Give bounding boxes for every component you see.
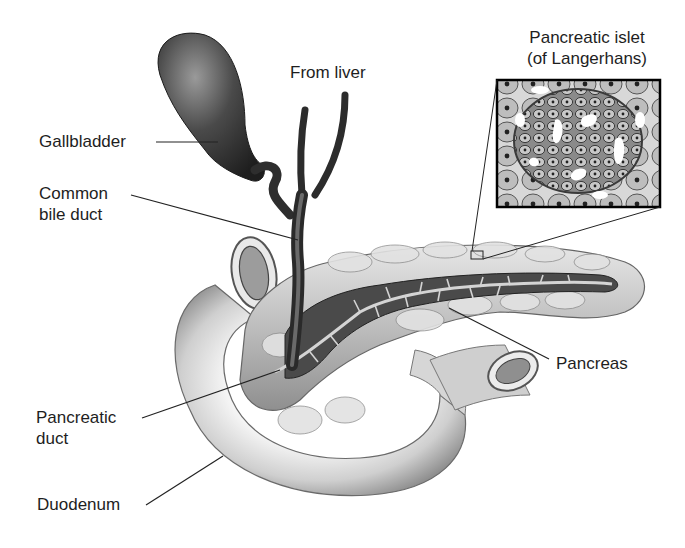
label-pancreatic-islet: Pancreatic islet (of Langerhans) bbox=[507, 27, 667, 69]
label-pancreas: Pancreas bbox=[556, 353, 628, 374]
islet-inset bbox=[471, 80, 660, 259]
label-common-bile-duct: Common bile duct bbox=[39, 183, 108, 225]
pancreas-anatomy-diagram: From liver Gallbladder Common bile duct … bbox=[0, 0, 685, 548]
label-from-liver: From liver bbox=[290, 62, 366, 83]
label-duodenum: Duodenum bbox=[37, 494, 120, 515]
gallbladder-shape bbox=[158, 33, 290, 215]
label-gallbladder: Gallbladder bbox=[39, 131, 126, 152]
label-pancreatic-duct: Pancreatic duct bbox=[36, 407, 116, 449]
